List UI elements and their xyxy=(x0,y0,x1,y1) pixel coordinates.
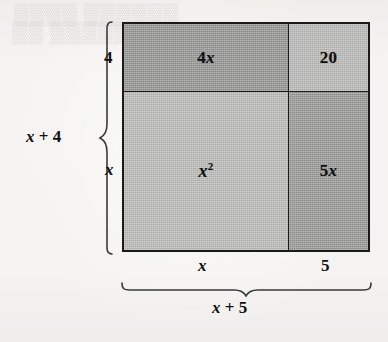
area-cell-5x-label: 5x xyxy=(320,161,338,181)
left-segment-label-4: 4 xyxy=(104,48,113,68)
bottom-segment-label-5: 5 xyxy=(321,256,330,276)
area-cell-4x-label: 4x xyxy=(197,48,215,68)
bottom-brace xyxy=(120,281,373,297)
area-model-rectangle: 4x 20 x2 5x xyxy=(122,22,370,252)
area-cell-x-squared-label: x2 xyxy=(198,161,213,182)
bottom-total-label: x + 5 xyxy=(212,298,247,318)
left-segment-label-x: x xyxy=(105,160,114,180)
left-total-label: x + 4 xyxy=(26,127,61,147)
bottom-segment-label-x: x xyxy=(198,256,207,276)
area-cell-x-squared: x2 xyxy=(124,92,289,250)
area-cell-20-label: 20 xyxy=(320,48,338,68)
area-cell-5x: 5x xyxy=(289,92,368,250)
diagram-canvas: ▒▒▒▒ ▒▒▒▒▒▒ ▒▒ ▒▒▒▒▒▒ ▒▒▒▒▒ x + 4 4 x 4x… xyxy=(0,0,388,342)
area-cell-4x: 4x xyxy=(124,24,289,92)
area-cell-20: 20 xyxy=(289,24,368,92)
